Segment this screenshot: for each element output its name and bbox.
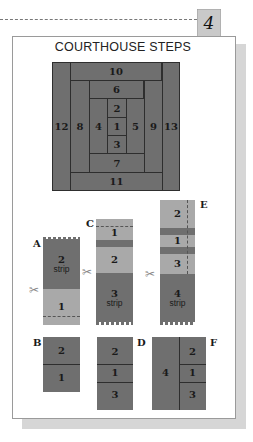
block-piece-9: 9 (144, 80, 163, 173)
piece-label: 3 (114, 139, 121, 150)
piece-label: 10 (109, 66, 123, 77)
unit-d: 2 1 3 (97, 337, 133, 410)
seam-line (43, 316, 80, 317)
step-label-f: F (210, 337, 217, 348)
piece-label: 13 (164, 121, 178, 132)
step-label-e: E (200, 199, 208, 210)
seam-line (187, 200, 188, 274)
unit-b-piece-2: 2 (43, 345, 80, 356)
seam-line (179, 382, 206, 383)
block-piece-7: 7 (89, 153, 145, 173)
courthouse-steps-block: 10 6 2 12 8 4 1 5 9 13 3 7 11 (52, 62, 180, 191)
strip-a-piece-1: 1 (43, 289, 80, 325)
piece-label: 1 (58, 302, 65, 312)
step-label-a: A (33, 238, 41, 249)
block-piece-12: 12 (52, 62, 71, 191)
scissors-icon: ✂ (29, 284, 39, 296)
step-number: 4 (197, 13, 221, 33)
piece-label: 11 (110, 176, 124, 187)
strip-label: strip (169, 299, 185, 308)
block-piece-10: 10 (70, 62, 162, 81)
step-label-d: D (137, 337, 146, 348)
strip-c-piece-2: 2 (96, 247, 133, 273)
unit-d-piece-2: 2 (97, 346, 133, 357)
piece-label: 1 (114, 121, 121, 132)
block-piece-8: 8 (70, 80, 90, 173)
unit-f: 4 2 1 3 (152, 337, 206, 410)
piece-label: 6 (113, 84, 120, 95)
scissors-icon: ✂ (82, 266, 92, 278)
strip-c-piece-3: 3 strip (96, 273, 133, 323)
dash-dot-divider (0, 19, 197, 20)
piece-label: 4 (95, 121, 102, 132)
block-piece-2: 2 (107, 98, 127, 118)
ragged-edge (160, 322, 195, 325)
piece-label: 2 (174, 209, 181, 219)
strip-e: 2 1 3 4 strip (160, 200, 195, 325)
piece-label: 2 (114, 103, 121, 114)
step-label-b: B (33, 337, 41, 348)
piece-label: 3 (174, 259, 181, 269)
ragged-edge (96, 322, 133, 325)
seam-line (97, 382, 133, 383)
piece-label: 9 (150, 121, 157, 132)
unit-f-piece-1: 1 (179, 367, 206, 378)
strip-a-piece-2: 2 strip (43, 239, 80, 289)
piece-label: 12 (55, 121, 69, 132)
piece-label: 1 (174, 236, 181, 246)
unit-d-piece-3: 3 (97, 389, 133, 400)
strip-label: strip (53, 265, 69, 274)
step-label-c: C (86, 218, 94, 229)
piece-label: 7 (114, 158, 121, 169)
piece-label: 8 (77, 121, 84, 132)
piece-label: 2 (58, 255, 65, 265)
seam-line (179, 364, 206, 365)
strip-e-piece-4: 4 strip (160, 274, 195, 323)
block-piece-6: 6 (89, 80, 144, 99)
strip-e-piece-2: 2 (160, 200, 195, 228)
unit-d-piece-1: 1 (97, 367, 133, 378)
strip-e-band-1 (160, 228, 195, 235)
strip-label: strip (106, 299, 122, 308)
piece-label: 3 (111, 289, 118, 299)
strip-c: 1 2 3 strip (96, 219, 133, 325)
unit-b-piece-1: 1 (43, 372, 80, 383)
seam-line (97, 364, 133, 365)
strip-e-piece-3: 3 (160, 254, 195, 274)
block-piece-11: 11 (70, 172, 163, 191)
block-piece-5: 5 (126, 98, 145, 154)
unit-f-piece-3: 3 (179, 389, 206, 400)
block-piece-13: 13 (162, 62, 180, 191)
strip-c-band (96, 240, 133, 247)
seam-line (43, 364, 80, 365)
block-piece-3: 3 (107, 135, 127, 154)
page-title: COURTHOUSE STEPS (12, 40, 234, 54)
scissors-icon: ✂ (145, 268, 155, 280)
strip-a: 2 strip 1 (43, 237, 80, 325)
unit-b: 2 1 (43, 337, 80, 392)
unit-f-piece-2: 2 (179, 346, 206, 357)
piece-label: 5 (132, 121, 139, 132)
block-piece-4: 4 (89, 98, 108, 154)
block-piece-1: 1 (107, 117, 127, 136)
strip-c-piece-1: 1 (96, 219, 133, 240)
strip-e-piece-1: 1 (160, 235, 195, 247)
strip-e-band-2 (160, 247, 195, 254)
piece-label: 1 (111, 228, 118, 238)
seam-line (96, 226, 133, 227)
unit-f-piece-4: 4 (152, 367, 179, 378)
piece-label: 2 (111, 255, 118, 265)
